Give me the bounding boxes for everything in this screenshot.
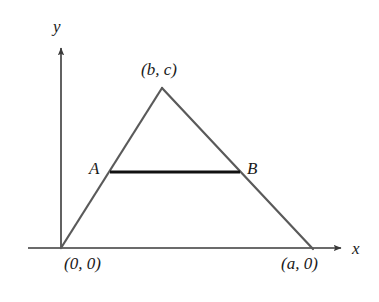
apex-point-label: (b, c) [141,61,177,78]
chord-left-endpoint-label: A [89,160,99,177]
geometry-diagram [0,0,379,302]
chord-right-endpoint-label: B [247,160,257,177]
triangle-right-edge [162,88,313,249]
y-axis-label: y [53,18,61,35]
x-axis-label: x [352,240,360,257]
origin-point-label: (0, 0) [64,255,101,272]
triangle-left-edge [61,88,162,248]
right-vertex-point-label: (a, 0) [281,255,318,272]
figure-canvas: y x (b, c) A B (0, 0) (a, 0) [0,0,379,302]
